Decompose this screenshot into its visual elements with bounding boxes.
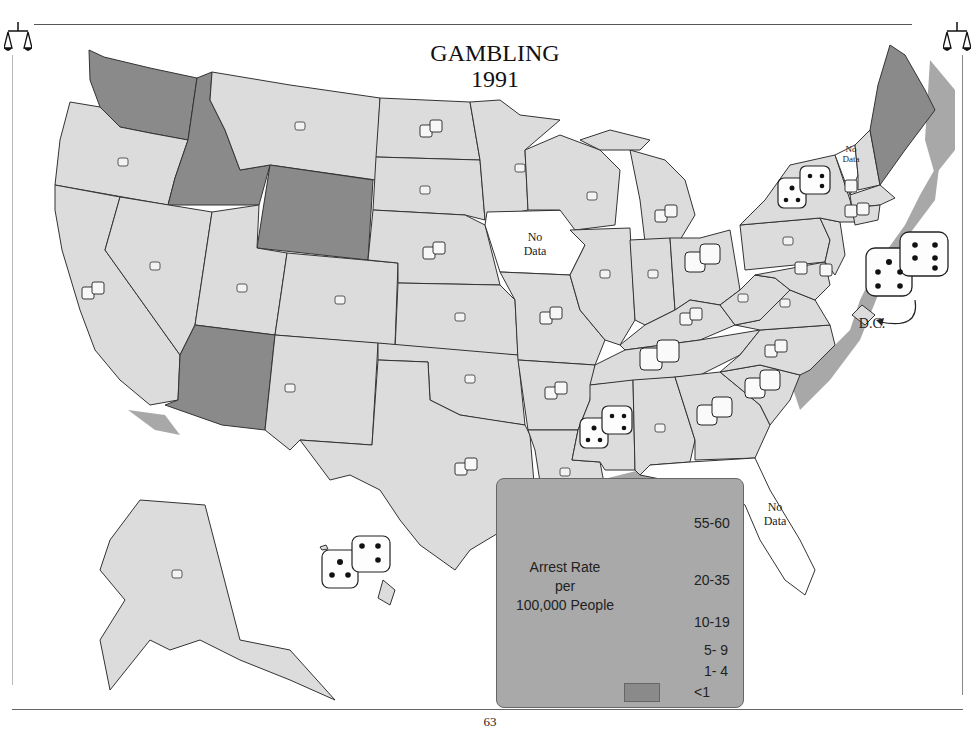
- state-maine: [870, 45, 935, 185]
- us-map: [0, 0, 977, 731]
- page-title: GAMBLING 1991: [395, 40, 595, 92]
- legend-range-less-than-1: <1: [694, 684, 710, 700]
- no-data-line-2: Data: [755, 514, 795, 528]
- legend-range-55-60: 55-60: [694, 515, 730, 531]
- no-data-line-1: No: [510, 230, 560, 244]
- iowa-no-data-label: No Data: [510, 230, 560, 258]
- state-wyoming: [257, 165, 373, 260]
- legend-range-20-35: 20-35: [694, 572, 730, 588]
- state-hawaii-island: [320, 545, 328, 550]
- map-page: GAMBLING 1991 No Data No Data No Data D.…: [0, 0, 977, 731]
- dc-label: D.C.: [852, 317, 892, 331]
- state-hawaii: [378, 580, 395, 605]
- legend-title-line-3: 100,000 People: [505, 596, 625, 615]
- legend-range-1-4: 1- 4: [704, 663, 728, 679]
- legend-title: Arrest Rate per 100,000 People: [505, 558, 625, 615]
- title-line-1: GAMBLING: [395, 40, 595, 66]
- no-data-line-2: Data: [510, 244, 560, 258]
- florida-no-data-label: No Data: [755, 500, 795, 528]
- legend-range-5-9: 5- 9: [704, 642, 728, 658]
- legend-title-line-1: Arrest Rate: [505, 558, 625, 577]
- no-data-line-2: Data: [838, 154, 864, 164]
- no-data-line-1: No: [838, 144, 864, 154]
- vermont-no-data-label: No Data: [838, 144, 864, 164]
- state-alaska: [100, 500, 335, 700]
- bottom-rule: [12, 709, 963, 710]
- state-indiana: [630, 238, 675, 325]
- legend-title-line-2: per: [505, 577, 625, 596]
- state-michigan: [630, 150, 695, 242]
- page-number: 63: [470, 714, 510, 730]
- legend-swatch-gray: [624, 683, 660, 702]
- state-new-mexico: [265, 335, 378, 450]
- legend-range-10-19: 10-19: [694, 614, 730, 630]
- no-data-line-1: No: [755, 500, 795, 514]
- title-line-2: 1991: [395, 66, 595, 92]
